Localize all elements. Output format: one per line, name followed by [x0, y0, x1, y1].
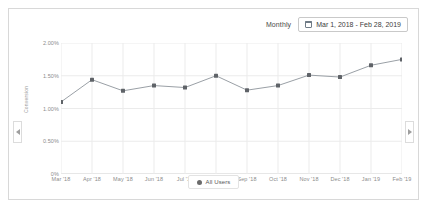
y-axis-labels: 0%0.50%1.00%1.50%2.00% — [29, 43, 59, 174]
conversion-chart-card: Monthly Mar 1, 2018 - Feb 28, 2019 Conve… — [8, 8, 419, 200]
calendar-icon — [305, 21, 312, 28]
line-chart — [61, 43, 402, 174]
scroll-left-button[interactable] — [13, 121, 22, 143]
y-tick-label: 0.50% — [43, 138, 59, 144]
date-range-picker[interactable]: Mar 1, 2018 - Feb 28, 2019 — [298, 17, 408, 32]
legend-marker-icon — [197, 180, 202, 185]
date-range-text: Mar 1, 2018 - Feb 28, 2019 — [316, 21, 401, 28]
chart-legend: All Users — [9, 175, 418, 189]
plot-area: Conversion 0%0.50%1.00%1.50%2.00% Mar '1… — [9, 43, 420, 183]
chevron-left-icon — [16, 129, 20, 135]
y-tick-label: 1.00% — [43, 106, 59, 112]
scroll-right-button[interactable] — [405, 121, 414, 143]
y-tick-label: 1.50% — [43, 73, 59, 79]
legend-item-all-users[interactable]: All Users — [188, 175, 240, 189]
y-tick-label: 2.00% — [43, 40, 59, 46]
frequency-label: Monthly — [266, 21, 291, 28]
legend-label: All Users — [206, 179, 231, 185]
chevron-right-icon — [408, 129, 412, 135]
chart-header: Monthly Mar 1, 2018 - Feb 28, 2019 — [266, 17, 408, 32]
